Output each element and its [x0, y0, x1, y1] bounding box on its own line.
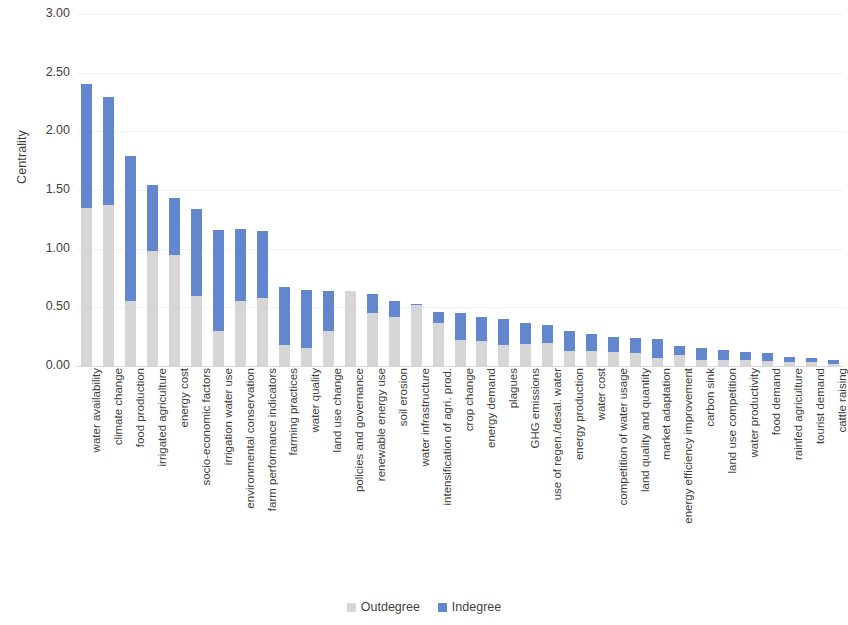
bar-segment-outdegree[interactable]	[608, 352, 619, 366]
bar-segment-outdegree[interactable]	[169, 255, 180, 366]
bar-column[interactable]	[257, 231, 268, 366]
bar-segment-outdegree[interactable]	[498, 345, 509, 366]
bar-segment-outdegree[interactable]	[235, 301, 246, 366]
bar-segment-outdegree[interactable]	[81, 208, 92, 366]
bar-segment-indegree[interactable]	[389, 301, 400, 316]
bar-column[interactable]	[696, 348, 707, 366]
bar-segment-indegree[interactable]	[81, 84, 92, 207]
bar-column[interactable]	[564, 331, 575, 366]
bar-segment-indegree[interactable]	[169, 198, 180, 254]
bar-segment-indegree[interactable]	[323, 291, 334, 331]
bar-segment-outdegree[interactable]	[147, 251, 158, 366]
bar-column[interactable]	[784, 357, 795, 366]
bar-segment-outdegree[interactable]	[191, 296, 202, 366]
bar-segment-indegree[interactable]	[147, 185, 158, 251]
bar-column[interactable]	[125, 156, 136, 366]
bar-column[interactable]	[169, 198, 180, 366]
bar-segment-outdegree[interactable]	[476, 341, 487, 366]
bar-segment-indegree[interactable]	[103, 97, 114, 205]
bar-segment-indegree[interactable]	[674, 346, 685, 355]
bar-segment-indegree[interactable]	[125, 156, 136, 301]
bar-segment-outdegree[interactable]	[762, 361, 773, 366]
bar-column[interactable]	[367, 294, 378, 366]
bar-column[interactable]	[81, 84, 92, 366]
bar-segment-indegree[interactable]	[498, 319, 509, 345]
bar-column[interactable]	[762, 353, 773, 366]
bar-column[interactable]	[498, 319, 509, 366]
bar-segment-indegree[interactable]	[696, 348, 707, 360]
bar-column[interactable]	[674, 346, 685, 366]
bar-segment-indegree[interactable]	[564, 331, 575, 351]
bar-segment-indegree[interactable]	[542, 325, 553, 343]
bar-column[interactable]	[279, 287, 290, 366]
bar-column[interactable]	[542, 325, 553, 366]
bar-segment-indegree[interactable]	[476, 317, 487, 342]
bar-segment-indegree[interactable]	[762, 353, 773, 361]
bar-column[interactable]	[213, 230, 224, 366]
bar-column[interactable]	[191, 209, 202, 366]
bar-segment-indegree[interactable]	[191, 209, 202, 296]
bar-segment-indegree[interactable]	[520, 323, 531, 344]
bar-segment-indegree[interactable]	[828, 360, 839, 364]
bar-column[interactable]	[520, 323, 531, 366]
bar-segment-outdegree[interactable]	[784, 362, 795, 366]
bar-segment-outdegree[interactable]	[411, 305, 422, 366]
bar-segment-indegree[interactable]	[718, 350, 729, 361]
bar-column[interactable]	[301, 290, 312, 366]
legend-item[interactable]: Outdegree	[347, 600, 420, 614]
bar-segment-outdegree[interactable]	[125, 301, 136, 366]
bar-segment-indegree[interactable]	[806, 358, 817, 363]
bar-segment-outdegree[interactable]	[279, 345, 290, 366]
bar-segment-outdegree[interactable]	[301, 348, 312, 366]
bar-segment-outdegree[interactable]	[455, 340, 466, 366]
bar-segment-outdegree[interactable]	[696, 360, 707, 366]
bar-segment-indegree[interactable]	[367, 294, 378, 313]
bar-column[interactable]	[718, 350, 729, 366]
bar-segment-outdegree[interactable]	[103, 205, 114, 366]
bar-segment-indegree[interactable]	[652, 339, 663, 358]
bar-column[interactable]	[433, 312, 444, 366]
bar-segment-indegree[interactable]	[455, 313, 466, 340]
bar-segment-outdegree[interactable]	[213, 331, 224, 366]
bar-segment-indegree[interactable]	[608, 337, 619, 352]
bar-segment-outdegree[interactable]	[542, 343, 553, 366]
bar-segment-outdegree[interactable]	[257, 298, 268, 366]
bar-column[interactable]	[103, 97, 114, 366]
bar-segment-indegree[interactable]	[279, 287, 290, 344]
bar-segment-indegree[interactable]	[630, 338, 641, 353]
bar-column[interactable]	[652, 339, 663, 366]
bar-segment-outdegree[interactable]	[652, 358, 663, 366]
bar-segment-outdegree[interactable]	[564, 351, 575, 366]
bar-segment-outdegree[interactable]	[433, 323, 444, 366]
bar-segment-outdegree[interactable]	[828, 364, 839, 366]
bar-column[interactable]	[147, 185, 158, 366]
bar-segment-indegree[interactable]	[257, 231, 268, 298]
bar-segment-outdegree[interactable]	[740, 360, 751, 366]
bar-segment-indegree[interactable]	[433, 312, 444, 323]
bar-column[interactable]	[586, 334, 597, 366]
bar-column[interactable]	[608, 337, 619, 366]
bar-segment-indegree[interactable]	[784, 357, 795, 363]
bar-column[interactable]	[740, 352, 751, 366]
bar-column[interactable]	[828, 360, 839, 366]
bar-segment-indegree[interactable]	[740, 352, 751, 360]
bar-column[interactable]	[323, 291, 334, 366]
bar-column[interactable]	[345, 291, 356, 366]
bar-segment-outdegree[interactable]	[367, 313, 378, 366]
bar-segment-outdegree[interactable]	[323, 331, 334, 366]
bar-segment-indegree[interactable]	[411, 304, 422, 305]
bar-segment-outdegree[interactable]	[674, 355, 685, 366]
bar-segment-outdegree[interactable]	[630, 353, 641, 366]
bar-segment-indegree[interactable]	[213, 230, 224, 331]
bar-column[interactable]	[630, 338, 641, 366]
bar-segment-outdegree[interactable]	[586, 351, 597, 366]
bar-column[interactable]	[806, 358, 817, 366]
bar-segment-indegree[interactable]	[586, 334, 597, 350]
bar-column[interactable]	[455, 313, 466, 366]
bar-segment-outdegree[interactable]	[520, 344, 531, 366]
legend-item[interactable]: Indegree	[438, 600, 501, 614]
bar-segment-outdegree[interactable]	[718, 360, 729, 366]
bar-column[interactable]	[389, 301, 400, 366]
bar-segment-indegree[interactable]	[301, 290, 312, 349]
bar-segment-indegree[interactable]	[235, 229, 246, 302]
